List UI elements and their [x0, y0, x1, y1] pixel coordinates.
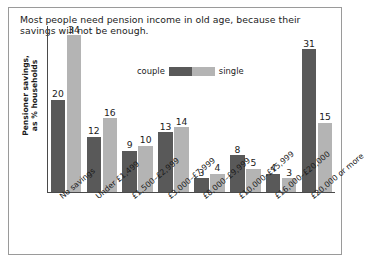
x-axis-tick-labels: No savingsUnder £1,499£1,500–£2,999£3,00… — [47, 194, 335, 252]
bar-couple — [87, 137, 102, 192]
bar-group: 2034 — [51, 26, 82, 192]
y-axis-label: Pensioner savings, as % households — [21, 36, 40, 154]
bar-value-label: 14 — [169, 116, 195, 127]
legend-label-single: single — [219, 66, 244, 76]
legend-swatch-couple — [169, 67, 192, 76]
bar-value-label: 16 — [97, 107, 123, 118]
bar-value-label: 15 — [312, 111, 338, 122]
chart-frame: Most people need pension income in old a… — [8, 7, 342, 255]
bar-couple — [51, 100, 66, 192]
bar-value-label: 8 — [224, 144, 250, 155]
bar-value-label: 10 — [133, 134, 159, 145]
legend-label-couple: couple — [137, 66, 165, 76]
bar-value-label: 31 — [296, 38, 322, 49]
y-axis-label-line1: Pensioner savings, — [21, 55, 30, 136]
y-axis-label-line2: as % households — [30, 60, 39, 131]
bar-value-label: 34 — [61, 24, 87, 35]
bar-single — [67, 35, 82, 192]
x-axis-line — [47, 192, 335, 193]
chart-legend: couple single — [137, 65, 244, 77]
legend-swatch-single — [192, 67, 215, 76]
